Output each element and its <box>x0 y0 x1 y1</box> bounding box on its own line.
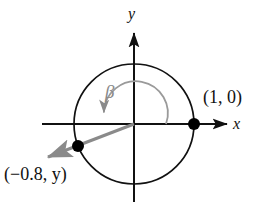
point-neg-zero-eight-marker <box>72 140 84 152</box>
angle-beta-label: β <box>105 82 114 101</box>
point-one-zero-marker <box>188 118 200 130</box>
y-axis-label: y <box>128 6 135 22</box>
x-axis-label: x <box>233 116 240 132</box>
point-one-zero-label: (1, 0) <box>203 88 242 106</box>
point-neg-zero-eight-label: (−0.8, y) <box>4 165 67 183</box>
terminal-ray <box>48 124 134 157</box>
unit-circle-figure: y x (1, 0) (−0.8, y) β <box>0 0 266 212</box>
